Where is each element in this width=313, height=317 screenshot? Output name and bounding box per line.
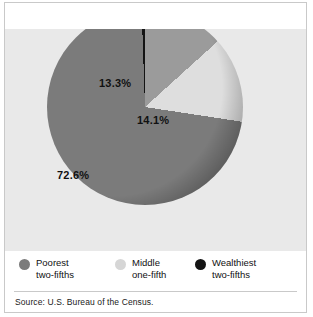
legend-item-poorest[interactable]: Poorest two-fifths [19,257,74,280]
pie-label-wealthiest-two-fifths: 14.1% [137,114,169,126]
source-divider [14,291,297,292]
pie-label-middle-one-fifth: 13.3% [99,77,131,89]
legend-label-middle: Middle one-fifth [132,257,166,280]
pie-label-poorest-two-fifths: 72.6% [57,169,89,181]
chart-legend: Poorest two-fifths Middle one-fifth Weal… [5,254,306,290]
legend-item-middle[interactable]: Middle one-fifth [115,257,166,280]
source-note: Source: U.S. Bureau of the Census. [15,297,154,307]
legend-swatch-circle-icon [19,259,30,270]
legend-swatch-circle-icon [115,259,126,270]
chart-plot-panel: 13.3% 14.1% 72.6% [5,29,306,251]
legend-item-wealthiest[interactable]: Wealthiest two-fifths [195,257,256,280]
legend-label-poorest: Poorest two-fifths [36,257,74,280]
figure-card: 13.3% 14.1% 72.6% Poorest two-fifths Mid… [4,2,307,313]
legend-swatch-circle-icon [195,259,206,270]
legend-label-wealthiest: Wealthiest two-fifths [212,257,256,280]
